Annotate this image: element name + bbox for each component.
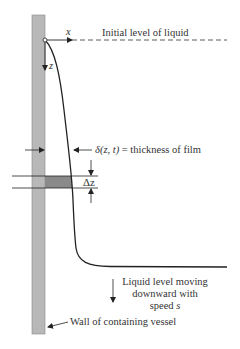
film-thickness-symbol: δ(z, t) <box>95 144 119 155</box>
moving-level-label: Liquid level moving downward with speed … <box>115 276 215 312</box>
wall-label: Wall of containing vessel <box>70 316 176 328</box>
delta-z-label: Δz <box>83 176 95 188</box>
moving-line-1: Liquid level moving <box>115 276 215 288</box>
speed-text: speed <box>150 300 177 311</box>
speed-symbol: s <box>176 300 180 311</box>
delta-z-text: Δz <box>83 176 95 188</box>
initial-level-label: Initial level of liquid <box>102 27 189 39</box>
origin-point <box>43 38 47 42</box>
film-element <box>45 176 72 188</box>
film-thickness-text: = thickness of film <box>119 144 201 155</box>
wall-pointer-arrow <box>48 322 68 327</box>
z-axis-label: z <box>49 60 53 72</box>
film-thickness-label: δ(z, t) = thickness of film <box>95 144 201 156</box>
vessel-wall <box>32 15 45 334</box>
moving-line-3: speed s <box>115 300 215 312</box>
moving-line-2: downward with <box>115 288 215 300</box>
x-axis-label: x <box>66 26 71 38</box>
